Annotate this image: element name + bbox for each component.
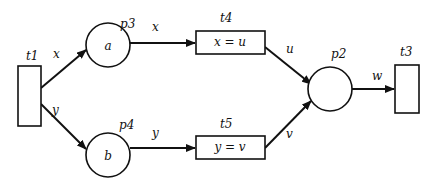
- transition-t4-label: t4: [220, 11, 232, 25]
- arc-label-p3-t4: x: [152, 20, 159, 34]
- transition-t1-label: t1: [26, 49, 38, 63]
- petri-net-diagram: t1 t4 t5 t3 x = u y = v p3 p4 p2 a b x y…: [0, 0, 437, 179]
- transition-t4-guard: x = u: [214, 35, 246, 49]
- place-p3-label: p3: [120, 17, 136, 31]
- transition-t3-label: t3: [400, 45, 413, 59]
- arc-t1-p4: [41, 104, 86, 149]
- transition-t5-label: t5: [220, 117, 232, 131]
- arc-label-t1-p3: x: [53, 47, 60, 61]
- arc-label-t5-p2: v: [286, 127, 293, 141]
- arc-label-t4-p2: u: [286, 42, 294, 56]
- arc-label-p4-t5: y: [151, 126, 159, 140]
- place-p3-token: a: [104, 39, 111, 53]
- transition-t3: [395, 65, 419, 113]
- arc-label-p2-t3: w: [372, 69, 383, 83]
- place-p4-label: p4: [119, 118, 134, 132]
- place-p4-token: b: [104, 149, 112, 163]
- place-p2: [308, 67, 352, 111]
- transition-t1: [18, 66, 41, 126]
- place-p2-label: p2: [331, 47, 346, 61]
- transition-t5-guard: y = v: [213, 140, 245, 154]
- arc-label-t1-p4: y: [51, 103, 59, 117]
- arc-t1-p3: [41, 50, 86, 88]
